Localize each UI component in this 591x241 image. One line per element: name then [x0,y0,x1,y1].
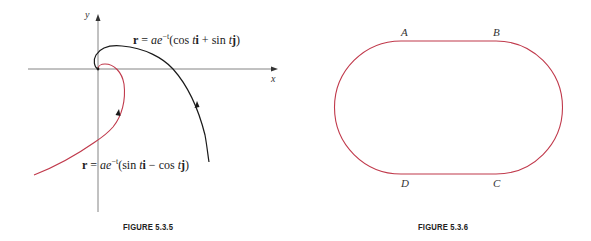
figure-caption: FIGURE 5.3.5 [123,222,173,232]
figure-5-3-5: y x r = ae−t(cos ti + sin tj) r = ae−t(s… [0,0,300,241]
y-axis-arrow-icon [96,14,101,21]
origin-point [97,68,100,71]
y-axis-label: y [85,9,89,20]
red-curve-equation: r = ae−t(sin ti − cos tj) [82,158,189,173]
black-curve-equation: r = ae−t(cos ti + sin tj) [133,33,240,48]
point-label-b: B [493,26,500,38]
racetrack-diagram [300,0,591,241]
stadium-curve [335,41,563,174]
point-label-c: C [493,177,500,189]
figure-5-3-6: A B C D FIGURE 5.3.6 [300,0,591,241]
point-label-a: A [401,26,408,38]
x-axis-label: x [271,73,275,84]
figure-caption: FIGURE 5.3.6 [418,222,468,232]
red-curve-direction-arrow-icon [116,109,121,116]
point-label-d: D [401,177,409,189]
x-axis-arrow-icon [271,67,278,72]
black-spiral-curve [94,46,209,162]
